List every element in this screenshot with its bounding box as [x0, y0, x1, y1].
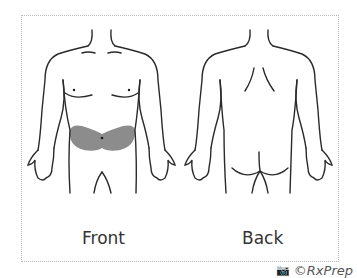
front-body-figure: [28, 30, 175, 193]
body-diagram: [0, 0, 357, 278]
back-label: Back: [242, 228, 283, 248]
image-credit: 📷 ©RxPrep: [276, 263, 353, 278]
credit-text: ©RxPrep: [294, 263, 353, 278]
back-body-figure: [185, 30, 332, 193]
camera-icon: 📷: [276, 264, 290, 277]
front-label: Front: [82, 228, 125, 248]
